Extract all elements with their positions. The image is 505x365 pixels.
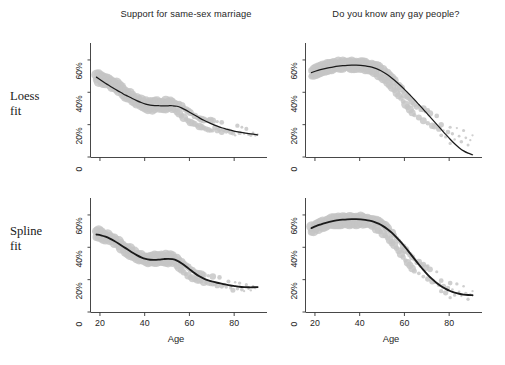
figure-root: Support for same-sex marriage Do you kno… <box>0 0 505 365</box>
axis-lines <box>0 0 505 365</box>
